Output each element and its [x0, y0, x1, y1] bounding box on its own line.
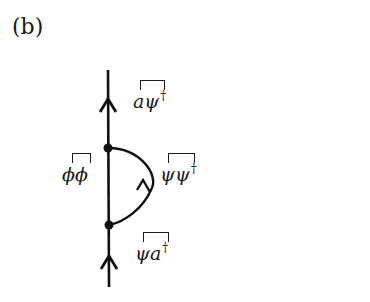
feynman-diagram [0, 0, 370, 302]
label-bottom-text: ψa [135, 242, 161, 264]
label-arc-text: ψψ [160, 163, 190, 185]
arc-arrow-icon [137, 180, 150, 192]
dagger-symbol: † [160, 89, 166, 103]
label-left-text: ϕϕ [62, 163, 88, 185]
dagger-symbol: † [191, 162, 197, 176]
label-top-text: aψ [133, 90, 159, 112]
upper-vertex [104, 144, 113, 153]
dagger-symbol: † [162, 241, 168, 255]
lower-vertex [105, 221, 114, 230]
